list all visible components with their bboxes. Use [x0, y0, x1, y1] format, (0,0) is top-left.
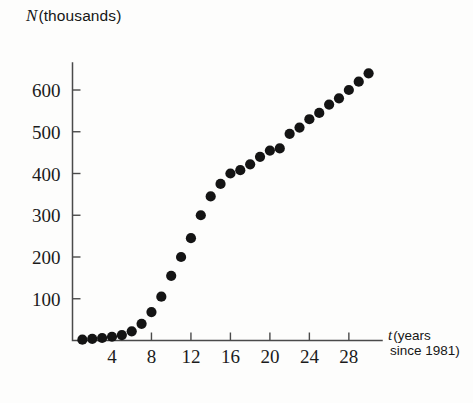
data-point [275, 143, 285, 153]
x-tick-marks [112, 333, 349, 341]
data-point [77, 335, 87, 345]
data-point [294, 122, 304, 132]
axes-group [73, 63, 383, 341]
data-point [206, 191, 216, 201]
data-point [245, 159, 255, 169]
data-point [146, 307, 156, 317]
data-point [344, 85, 354, 95]
x-tick-label: 8 [147, 346, 157, 367]
data-point [364, 68, 374, 78]
data-point [334, 93, 344, 103]
data-point [156, 292, 166, 302]
data-point [354, 77, 364, 87]
x-axis-units-line1: (years [393, 328, 431, 343]
x-tick-label: 28 [339, 346, 358, 367]
data-points-group [77, 68, 373, 345]
data-point [107, 332, 117, 342]
data-point [225, 168, 235, 178]
data-point [176, 252, 186, 262]
data-point [97, 333, 107, 343]
y-tick-label: 400 [32, 164, 61, 185]
y-tick-label: 300 [32, 205, 61, 226]
y-tick-label: 100 [32, 289, 61, 310]
x-tick-label: 12 [181, 346, 200, 367]
data-point [314, 108, 324, 118]
axis-lines [73, 63, 383, 341]
x-tick-label: 24 [300, 346, 320, 367]
data-point [166, 271, 176, 281]
data-point [117, 330, 127, 340]
x-tick-labels: 481216202428 [107, 346, 358, 367]
y-tick-label: 600 [32, 80, 61, 101]
data-point [136, 319, 146, 329]
x-tick-label: 4 [107, 346, 117, 367]
y-tick-label: 200 [32, 247, 61, 268]
data-point [235, 165, 245, 175]
y-tick-marks [73, 90, 81, 299]
data-point [215, 179, 225, 189]
data-point [265, 145, 275, 155]
x-axis-label: t(years since 1981) [388, 328, 460, 358]
data-point [255, 152, 265, 162]
y-tick-label: 500 [32, 122, 61, 143]
data-point [304, 114, 314, 124]
chart-figure: N(thousands) 100200300400500600 48121620… [0, 0, 473, 403]
data-point [186, 233, 196, 243]
y-tick-labels: 100200300400500600 [32, 80, 61, 310]
x-axis-units-line2: since 1981) [388, 343, 460, 358]
x-tick-label: 20 [260, 346, 279, 367]
data-point [324, 100, 334, 110]
x-tick-label: 16 [221, 346, 240, 367]
data-point [285, 129, 295, 139]
data-point [87, 334, 97, 344]
data-point [127, 326, 137, 336]
data-point [196, 210, 206, 220]
